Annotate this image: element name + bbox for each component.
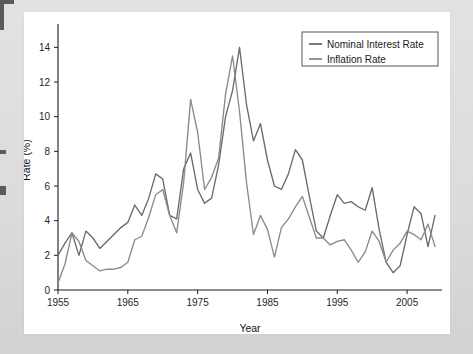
x-tick-label: 1995 [326, 297, 349, 308]
x-tick-label: 1955 [47, 297, 70, 308]
x-tick-label: 2005 [396, 297, 419, 308]
y-tick-label: 10 [39, 111, 51, 122]
legend-label-1: Nominal Interest Rate [327, 39, 424, 50]
y-tick-label: 0 [44, 285, 50, 296]
legend-label-2: Inflation Rate [327, 54, 386, 65]
y-tick-label: 8 [44, 146, 50, 157]
y-tick-label: 2 [44, 250, 50, 261]
x-tick-label: 1985 [256, 297, 279, 308]
chart-panel: 02468101214195519651975198519952005YearR… [24, 12, 450, 334]
y-axis-title: Rate (%) [24, 139, 32, 180]
line-chart: 02468101214195519651975198519952005YearR… [24, 12, 450, 334]
y-tick-label: 4 [44, 215, 50, 226]
y-tick-label: 12 [39, 77, 51, 88]
x-axis-title: Year [239, 322, 261, 334]
series-line-inflation-rate [58, 56, 435, 283]
y-tick-label: 6 [44, 181, 50, 192]
series-line-nominal-interest-rate [58, 47, 435, 272]
y-tick-label: 14 [39, 42, 51, 53]
page-edge-artifacts [0, 0, 18, 354]
x-tick-label: 1965 [117, 297, 140, 308]
x-tick-label: 1975 [187, 297, 210, 308]
